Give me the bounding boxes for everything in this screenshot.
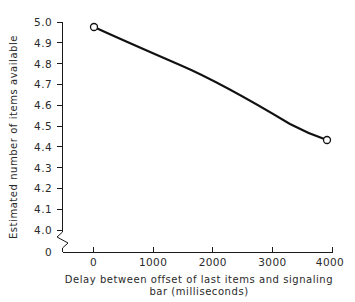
line-chart-canvas: 5.0 4.9 4.8 4.7 4.6 4.5 4.4 4.3 4.2 4.1 … xyxy=(0,0,355,302)
y-tick-marks xyxy=(57,22,63,230)
y-tick-label-4-1: 4.1 xyxy=(34,203,52,215)
data-point-marker xyxy=(324,137,331,144)
x-tick-label-1000: 1000 xyxy=(139,256,167,268)
y-tick-label-4-5: 4.5 xyxy=(34,120,52,132)
x-tick-label-3000: 3000 xyxy=(258,256,286,268)
y-axis: 5.0 4.9 4.8 4.7 4.6 4.5 4.4 4.3 4.2 4.1 … xyxy=(34,16,68,258)
x-tick-label-0: 0 xyxy=(90,256,97,268)
y-tick-label-4-4: 4.4 xyxy=(34,141,52,153)
y-tick-label-4-3: 4.3 xyxy=(34,162,52,174)
y-tick-label-4-8: 4.8 xyxy=(34,58,52,70)
x-axis-title-line1: Delay between offset of last items and s… xyxy=(65,274,333,285)
y-axis-break-icon xyxy=(57,230,68,252)
y-axis-title: Estimated number of items available xyxy=(8,35,19,239)
x-tick-label-2000: 2000 xyxy=(199,256,227,268)
y-tick-label-4-7: 4.7 xyxy=(34,78,52,90)
y-tick-label-4-2: 4.2 xyxy=(34,182,52,194)
y-tick-label-4-6: 4.6 xyxy=(34,99,52,111)
chart-figure: 5.0 4.9 4.8 4.7 4.6 4.5 4.4 4.3 4.2 4.1 … xyxy=(0,0,355,302)
y-tick-label-4-9: 4.9 xyxy=(34,37,52,49)
x-axis-title-line2: bar (milliseconds) xyxy=(149,286,248,297)
y-axis-origin-label: 0 xyxy=(45,246,52,258)
y-tick-label-4-0: 4.0 xyxy=(34,224,52,236)
y-tick-label-5-0: 5.0 xyxy=(34,16,52,28)
x-tick-marks xyxy=(94,247,333,253)
x-tick-label-4000: 4000 xyxy=(316,256,344,268)
x-axis: 0 1000 2000 3000 4000 xyxy=(63,247,345,269)
data-curve-line xyxy=(94,27,327,140)
data-series-estimated-items xyxy=(91,24,331,144)
data-point-marker xyxy=(91,24,98,31)
